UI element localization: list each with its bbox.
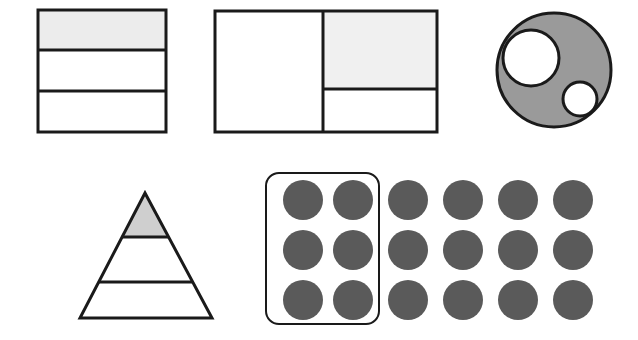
- dot: [498, 280, 538, 320]
- dot: [443, 280, 483, 320]
- circle-small-hole: [563, 82, 597, 116]
- dot-array-with-tray: [266, 173, 593, 324]
- dot: [283, 230, 323, 270]
- shapes-figure: [0, 0, 638, 340]
- square-shaded-band: [38, 10, 166, 50]
- triangle-shaded-band: [122, 193, 168, 237]
- dot: [333, 280, 373, 320]
- gray-circle-with-holes: [497, 13, 611, 127]
- dot: [283, 280, 323, 320]
- rectangle-shaded-cell: [323, 11, 437, 89]
- dot: [283, 180, 323, 220]
- dot: [553, 180, 593, 220]
- dot: [498, 180, 538, 220]
- dot: [333, 180, 373, 220]
- partitioned-square: [38, 10, 166, 132]
- circle-large-hole: [503, 30, 559, 86]
- dot: [553, 230, 593, 270]
- partitioned-rectangle: [215, 11, 437, 132]
- dot: [443, 180, 483, 220]
- worksheet-canvas: [0, 0, 638, 340]
- dot: [388, 230, 428, 270]
- dot: [498, 230, 538, 270]
- dot: [388, 180, 428, 220]
- dot: [553, 280, 593, 320]
- dot: [388, 280, 428, 320]
- dot: [333, 230, 373, 270]
- partitioned-triangle: [80, 193, 212, 318]
- dot: [443, 230, 483, 270]
